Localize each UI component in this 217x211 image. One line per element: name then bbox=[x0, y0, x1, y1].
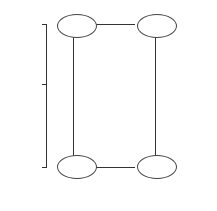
run-1-node bbox=[57, 155, 97, 179]
edge-left bbox=[73, 36, 74, 156]
run-4-node bbox=[137, 14, 177, 38]
run-2-node bbox=[137, 155, 177, 179]
b-axis-tick-124 bbox=[42, 167, 47, 168]
b-axis-tick-128 bbox=[42, 24, 47, 25]
b-axis-tick-126 bbox=[42, 84, 47, 85]
run-3-node bbox=[57, 14, 97, 38]
edge-top bbox=[92, 24, 135, 25]
edge-right bbox=[155, 36, 156, 156]
b-axis-line bbox=[46, 24, 47, 168]
edge-bottom bbox=[92, 167, 135, 168]
